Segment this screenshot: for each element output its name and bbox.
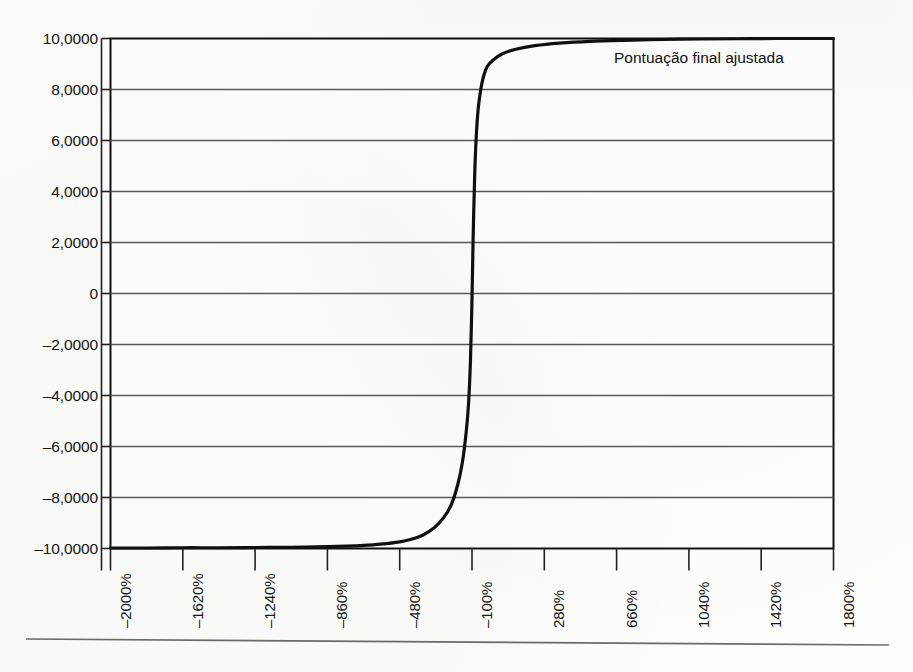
y-axis-tick-label: –8,0000 xyxy=(3,489,98,507)
y-axis-tick-label: –2,0000 xyxy=(3,336,98,354)
x-axis-tick-label: –100% xyxy=(478,582,495,628)
x-axis-tick-label: 660% xyxy=(623,590,640,628)
y-axis-tick-label: 6,0000 xyxy=(3,132,98,150)
y-axis-tick-label: 0 xyxy=(3,285,98,303)
x-axis-tick-label: –2000% xyxy=(117,574,134,628)
x-axis-ticks xyxy=(111,549,834,571)
x-axis-tick-label: –860% xyxy=(333,582,350,628)
x-axis-tick-label: 280% xyxy=(550,590,567,628)
page-separator-rule xyxy=(26,639,889,645)
x-axis-tick-label: 1420% xyxy=(767,582,784,628)
y-axis-tick-label: 10,0000 xyxy=(3,30,98,48)
x-axis-tick-label: 1800% xyxy=(840,582,857,628)
series-label: Pontuação final ajustada xyxy=(614,49,784,67)
y-axis-ticks xyxy=(102,39,111,571)
y-axis-tick-label: 4,0000 xyxy=(3,183,98,201)
y-axis-tick-label: 8,0000 xyxy=(3,81,98,99)
y-axis-tick-label: –10,0000 xyxy=(3,540,98,558)
x-axis-tick-label: –1620% xyxy=(189,574,206,628)
chart-canvas xyxy=(0,0,913,672)
y-axis-tick-label: –6,0000 xyxy=(3,438,98,456)
x-axis-tick-label: –480% xyxy=(406,582,423,628)
x-axis-tick-label: –1240% xyxy=(261,574,278,628)
x-axis-tick-label: 1040% xyxy=(695,582,712,628)
y-axis-tick-label: 2,0000 xyxy=(3,234,98,252)
chart-figure: 10,00008,00006,00004,00002,00000–2,0000–… xyxy=(0,0,913,672)
y-axis-tick-label: –4,0000 xyxy=(3,387,98,405)
